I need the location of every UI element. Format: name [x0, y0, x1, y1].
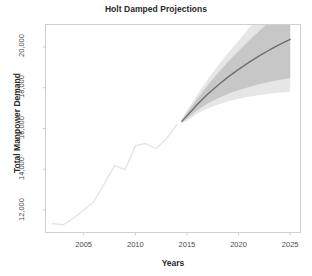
- plot-data-layer: [53, 0, 290, 225]
- y-tick-label: 14,000: [17, 148, 26, 188]
- y-tick-label: 16,000: [17, 108, 26, 148]
- x-tick-label: 2010: [115, 240, 155, 249]
- x-tick-label: 2005: [64, 240, 104, 249]
- forecast-interval-band: [182, 5, 290, 123]
- x-tick-label: 2015: [167, 240, 207, 249]
- y-tick-label: 12,000: [17, 189, 26, 229]
- x-tick-label: 2020: [219, 240, 259, 249]
- y-tick-label: 20,000: [17, 26, 26, 66]
- x-tick-label: 2025: [270, 240, 310, 249]
- y-tick-label: 18,000: [17, 67, 26, 107]
- chart-container: Holt Damped Projections Total Manpower D…: [0, 0, 312, 276]
- plot-area: [0, 0, 312, 276]
- historical-series-line: [53, 125, 177, 225]
